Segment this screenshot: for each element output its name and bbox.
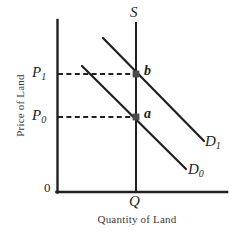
supply-demand-figure: S D1 D0 b a P1 P0 0 Q Price of Land Quan… — [0, 0, 237, 234]
p0-base: P — [32, 107, 41, 123]
x-axis-title: Quantity of Land — [72, 214, 202, 225]
demand-curve-d0-label: D0 — [188, 162, 204, 177]
p0-subscript: 0 — [41, 114, 46, 125]
y-axis-title: Price of Land — [15, 56, 26, 156]
demand-d0-subscript: 0 — [199, 168, 204, 179]
p1-subscript: 1 — [41, 71, 46, 82]
y-tick-label-p0: P0 — [32, 108, 46, 123]
point-label-a: a — [144, 107, 151, 121]
point-marker-a — [133, 114, 140, 121]
origin-label: 0 — [44, 181, 51, 194]
point-marker-b — [133, 71, 140, 78]
x-tick-label-q: Q — [129, 194, 140, 209]
y-tick-label-p1: P1 — [32, 65, 46, 80]
demand-d0-base: D — [188, 161, 199, 177]
demand-curve-d1-label: D1 — [205, 134, 221, 149]
p1-base: P — [32, 64, 41, 80]
supply-curve-label: S — [130, 5, 138, 20]
point-label-b: b — [144, 64, 151, 78]
demand-d1-subscript: 1 — [216, 140, 221, 151]
demand-curve-D1 — [103, 38, 204, 141]
demand-d1-base: D — [205, 133, 216, 149]
